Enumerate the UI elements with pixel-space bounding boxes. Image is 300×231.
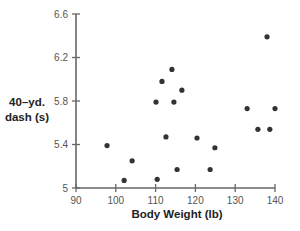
y-tick-label: 6.6 — [54, 9, 68, 20]
data-point — [163, 134, 168, 139]
y-axis-title-line-1: 40–yd. — [9, 96, 45, 108]
scatter-chart: 90100110120130140 55.45.86.26.6 Body Wei… — [0, 0, 300, 231]
y-tick-label: 5 — [62, 183, 68, 194]
data-point — [272, 106, 277, 111]
x-tick-label: 110 — [148, 195, 164, 206]
data-point — [255, 127, 260, 132]
data-point — [153, 99, 158, 104]
data-point — [130, 158, 135, 163]
data-point — [104, 143, 109, 148]
y-tick-label: 5.8 — [54, 96, 68, 107]
data-point — [194, 135, 199, 140]
data-point — [179, 88, 184, 93]
y-axis-title-line-2: dash (s) — [5, 111, 49, 123]
data-point — [267, 127, 272, 132]
y-tick-label: 5.4 — [54, 139, 68, 150]
x-tick-label: 100 — [107, 195, 124, 206]
data-point — [155, 177, 160, 182]
data-point — [159, 79, 164, 84]
data-point — [169, 67, 174, 72]
data-point — [264, 34, 269, 39]
x-tick-label: 130 — [227, 195, 244, 206]
x-tick-label: 90 — [70, 195, 82, 206]
data-point — [212, 145, 217, 150]
data-point — [245, 106, 250, 111]
y-tick-label: 6.2 — [54, 52, 68, 63]
data-point — [208, 167, 213, 172]
x-axis-title: Body Weight (lb) — [131, 208, 222, 220]
data-points — [104, 34, 277, 183]
x-tick-label: 120 — [187, 195, 204, 206]
x-tick-label: 140 — [267, 195, 284, 206]
data-point — [171, 99, 176, 104]
data-point — [174, 167, 179, 172]
data-point — [122, 178, 127, 183]
